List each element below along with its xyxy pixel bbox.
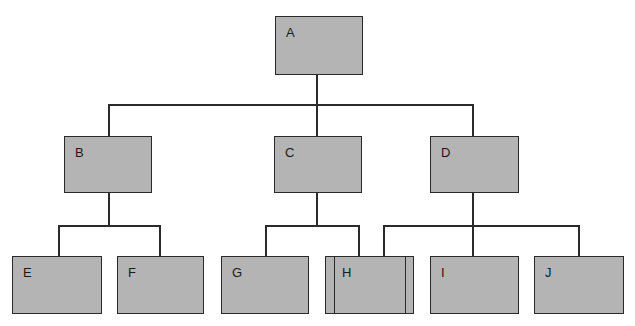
node-label: F	[128, 265, 136, 280]
node-label: J	[545, 265, 552, 280]
connector-to-c	[316, 104, 318, 136]
connector-c-to-h	[358, 225, 360, 257]
node-label: A	[286, 25, 295, 40]
connector-to-j	[578, 225, 580, 257]
connector-d-down	[472, 192, 474, 225]
connector-d-to-h	[383, 225, 385, 257]
node-d: D	[430, 136, 519, 193]
connector-d-bus	[383, 225, 579, 227]
connector-to-e	[58, 225, 60, 257]
connector-to-g	[265, 225, 267, 257]
node-label: G	[232, 265, 242, 280]
node-label: H	[342, 265, 351, 280]
node-b: B	[64, 136, 152, 193]
node-h-right-stripe	[405, 257, 406, 313]
connector-to-d	[472, 104, 474, 136]
connector-level1-bus	[108, 104, 473, 106]
connector-c-down	[316, 192, 318, 225]
node-f: F	[117, 256, 204, 314]
node-h-left-stripe	[334, 257, 335, 313]
node-label: B	[75, 145, 84, 160]
node-label: E	[23, 265, 32, 280]
node-label: D	[441, 145, 450, 160]
connector-a-down	[316, 74, 318, 104]
connector-b-down	[108, 192, 110, 225]
connector-to-i	[472, 225, 474, 257]
node-label: C	[285, 145, 294, 160]
org-chart: A B C D E F G H I J	[0, 0, 635, 326]
node-j: J	[534, 256, 624, 314]
node-a: A	[275, 16, 363, 75]
connector-b-bus	[58, 225, 160, 227]
connector-to-f	[159, 225, 161, 257]
node-label: I	[441, 265, 445, 280]
node-c: C	[274, 136, 362, 193]
node-h: H	[325, 256, 414, 314]
node-g: G	[221, 256, 309, 314]
node-i: I	[430, 256, 519, 314]
connector-c-bus	[265, 225, 359, 227]
node-e: E	[12, 256, 102, 314]
connector-to-b	[108, 104, 110, 136]
